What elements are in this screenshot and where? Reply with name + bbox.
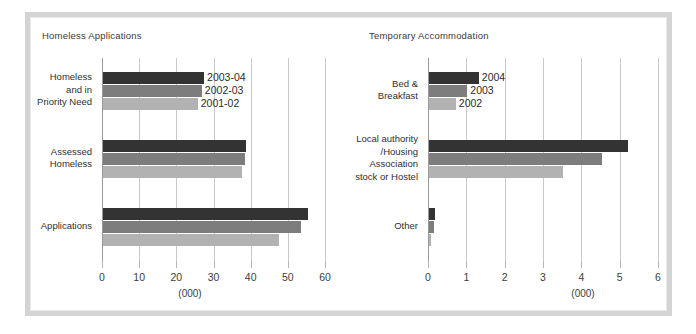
category-label-line: Other [314, 220, 418, 233]
plot-area-left: 01020304050602003-042002-032001-02Homele… [0, 0, 348, 334]
x-axis-tick [214, 261, 215, 268]
x-tick-label: 2 [485, 271, 525, 283]
axis-title-left: (000) [160, 288, 220, 299]
x-tick-label: 20 [156, 271, 196, 283]
axis-title-right: (000) [553, 288, 613, 299]
bar [429, 140, 628, 152]
x-tick-label: 10 [119, 271, 159, 283]
bar [103, 208, 308, 220]
x-axis-tick [176, 261, 177, 268]
plot-area-right: 0123456200420032002Bed &BreakfastLocal a… [348, 0, 696, 334]
category-label-line: Applications [0, 220, 92, 233]
bar [429, 221, 434, 233]
series-label-2004: 2004 [482, 71, 505, 83]
category-label-line: Local authority [314, 133, 418, 146]
bar [103, 221, 301, 233]
x-axis-tick [543, 261, 544, 268]
series-label-2002-03: 2002-03 [205, 84, 244, 96]
bar [103, 72, 204, 84]
bar [103, 140, 246, 152]
gridline [620, 58, 621, 261]
bar [429, 72, 479, 84]
x-tick-label: 50 [268, 271, 308, 283]
x-tick-label: 1 [446, 271, 486, 283]
x-axis-tick [620, 261, 621, 268]
category-label-line: Homeless [0, 158, 92, 171]
x-axis-tick [325, 261, 326, 268]
category-label-line: stock or Hostel [314, 171, 418, 184]
category-label-line: Bed & [314, 78, 418, 91]
category-label: Applications [0, 220, 92, 233]
x-axis-tick [658, 261, 659, 268]
category-label-line: and in [0, 84, 92, 97]
category-label-line: Assessed [0, 146, 92, 159]
x-axis-tick [251, 261, 252, 268]
category-label-line: Homeless [0, 71, 92, 84]
category-label-line: Breakfast [314, 90, 418, 103]
x-axis-tick [139, 261, 140, 268]
bar [103, 153, 245, 165]
bar [103, 166, 242, 178]
category-label-line: Association [314, 158, 418, 171]
bar [429, 234, 431, 246]
category-label: Homelessand inPriority Need [0, 71, 92, 109]
x-axis-tick [466, 261, 467, 268]
chart-figure: Homeless Applications 01020304050602003-… [0, 0, 696, 334]
chart-panel-temporary-accommodation: Temporary Accommodation 0123456200420032… [348, 0, 696, 334]
x-axis-tick [505, 261, 506, 268]
series-label-2003: 2003 [470, 84, 493, 96]
bar [429, 98, 456, 110]
x-axis-tick [581, 261, 582, 268]
category-label-line: Priority Need [0, 96, 92, 109]
x-tick-label: 6 [638, 271, 678, 283]
category-label-line: /Housing [314, 146, 418, 159]
series-label-2003-04: 2003-04 [207, 71, 246, 83]
chart-panel-homeless-applications: Homeless Applications 01020304050602003-… [0, 0, 348, 334]
bar [103, 85, 202, 97]
bar [429, 85, 467, 97]
x-axis-tick [102, 261, 103, 268]
x-tick-label: 3 [523, 271, 563, 283]
x-tick-label: 30 [194, 271, 234, 283]
bar [429, 208, 435, 220]
x-tick-label: 4 [561, 271, 601, 283]
bar [429, 166, 563, 178]
series-label-2001-02: 2001-02 [201, 97, 240, 109]
series-label-2002: 2002 [459, 97, 482, 109]
bar [103, 98, 198, 110]
x-tick-label: 0 [408, 271, 448, 283]
bar [103, 234, 279, 246]
category-label: Other [314, 220, 418, 233]
category-label: AssessedHomeless [0, 146, 92, 171]
category-label: Bed &Breakfast [314, 78, 418, 103]
x-axis-tick [288, 261, 289, 268]
gridline [658, 58, 659, 261]
x-axis-tick [428, 261, 429, 268]
category-label: Local authority/HousingAssociationstock … [314, 133, 418, 183]
x-tick-label: 60 [305, 271, 345, 283]
bar [429, 153, 602, 165]
x-tick-label: 0 [82, 271, 122, 283]
x-tick-label: 5 [600, 271, 640, 283]
x-tick-label: 40 [231, 271, 271, 283]
